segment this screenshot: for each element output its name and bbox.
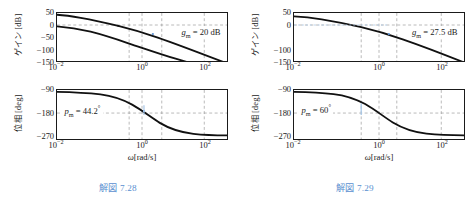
gain-x-ticks-right: 10−2 100 102 (293, 63, 465, 76)
phase-plot-area-right: pm = 60° (293, 89, 465, 140)
phase-plot-area-left: pm = 44.2° (56, 89, 228, 140)
xtick-1e0: 100 (136, 63, 148, 72)
xtick-1e2: 102 (436, 63, 448, 72)
figure-caption-left: 解図 7.28 (0, 180, 236, 194)
phase-plot-panel-left: 位相 [deg] −90 −180 −270 (0, 80, 236, 162)
phase-x-axis-label-right: ω[rad/s] (293, 152, 465, 162)
xtick-1e0: 100 (373, 63, 385, 72)
xtick-1e2: 102 (436, 141, 448, 150)
phase-margin-annotation-right: pm = 60° (299, 104, 333, 117)
xtick-1e-2: 10−2 (48, 63, 63, 72)
gain-x-ticks-left: 10−2 100 102 (56, 63, 228, 76)
gain-plot-panel-right: ゲイン [dB] 50 0 −100 −150 (237, 2, 473, 80)
figure-caption-right: 解図 7.29 (237, 180, 473, 194)
xtick-1e0: 100 (373, 141, 385, 150)
phase-y-ticks-right: −90 −180 −270 (251, 89, 291, 140)
gain-y-ticks-right: 50 0 −100 −150 (251, 12, 291, 62)
xtick-1e2: 102 (199, 141, 211, 150)
xtick-1e2: 102 (199, 63, 211, 72)
gain-margin-annotation-right: gm = 27.5 dB (410, 26, 461, 39)
xtick-1e0: 100 (136, 141, 148, 150)
gain-y-ticks-left: 50 0 −50 −100 −150 (14, 12, 54, 62)
gain-plot-area-left: gm = 20 dB (56, 12, 228, 62)
phase-margin-annotation-left: pm = 44.2° (62, 105, 103, 118)
xtick-1e-2: 10−2 (285, 141, 300, 150)
phase-plot-panel-right: 位相 [deg] −90 −180 −270 pm (237, 80, 473, 162)
phase-x-axis-label-left: ω[rad/s] (56, 152, 228, 162)
phase-y-ticks-left: −90 −180 −270 (14, 89, 54, 140)
gain-margin-annotation-left: gm = 20 dB (179, 26, 223, 39)
xtick-1e-2: 10−2 (48, 141, 63, 150)
figure-7-29: ゲイン [dB] 50 0 −100 −150 (237, 0, 473, 201)
gain-plot-panel-left: ゲイン [dB] 50 0 −50 −100 −150 (0, 2, 236, 80)
figure-7-28: ゲイン [dB] 50 0 −50 −100 −150 (0, 0, 236, 201)
gain-plot-area-right: gm = 27.5 dB (293, 12, 465, 62)
xtick-1e-2: 10−2 (285, 63, 300, 72)
figure-page: ゲイン [dB] 50 0 −50 −100 −150 (0, 0, 473, 201)
